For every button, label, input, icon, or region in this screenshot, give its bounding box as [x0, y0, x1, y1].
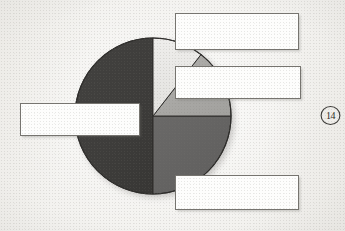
page-number-text: 14	[326, 111, 335, 121]
callout-label-bottom[interactable]	[175, 175, 299, 210]
callout-label-bottom-text	[176, 176, 298, 182]
callout-label-left[interactable]	[20, 103, 140, 136]
callout-label-top-right[interactable]	[175, 13, 299, 50]
callout-label-mid-right-text	[176, 67, 300, 73]
scanned-page: 14	[0, 0, 345, 231]
callout-label-mid-right[interactable]	[175, 66, 301, 99]
page-number-marker: 14	[320, 105, 341, 126]
callout-label-left-text	[21, 104, 139, 110]
callout-label-top-right-text	[176, 14, 298, 20]
